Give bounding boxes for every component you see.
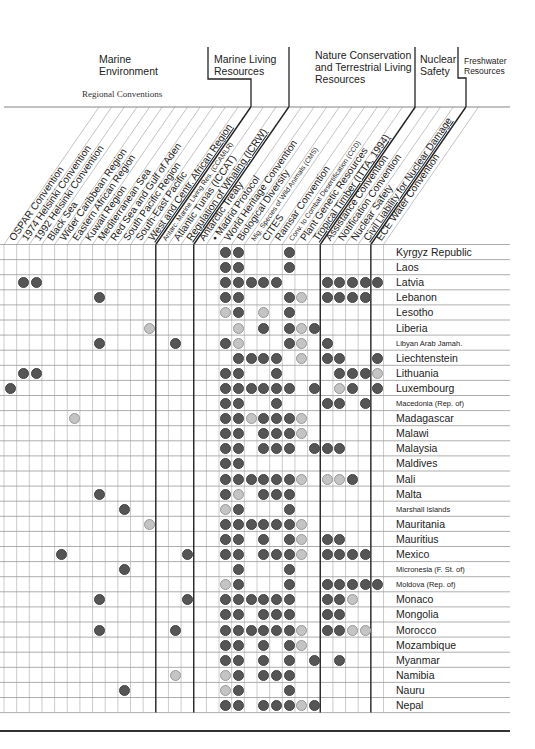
country-label: Mexico bbox=[396, 547, 429, 562]
member-dot bbox=[233, 549, 244, 560]
member-dot bbox=[360, 549, 371, 560]
member-dot bbox=[347, 549, 358, 560]
member-dot bbox=[258, 489, 269, 500]
country-label: Mauritania bbox=[396, 517, 445, 532]
country-label: Myanmar bbox=[396, 653, 440, 668]
country-label: Liberia bbox=[396, 321, 428, 336]
member-dot bbox=[233, 655, 244, 666]
member-dot bbox=[271, 474, 282, 485]
signatory-dot bbox=[347, 625, 358, 636]
member-dot bbox=[233, 353, 244, 364]
member-dot bbox=[284, 534, 295, 545]
member-dot bbox=[258, 323, 269, 334]
member-dot bbox=[246, 594, 257, 605]
member-dot bbox=[284, 579, 295, 590]
member-dot bbox=[284, 474, 295, 485]
member-dot bbox=[322, 277, 333, 288]
country-label: Kyrgyz Republic bbox=[396, 245, 472, 260]
member-dot bbox=[233, 247, 244, 258]
member-dot bbox=[334, 368, 345, 379]
member-dot bbox=[246, 353, 257, 364]
member-dot bbox=[284, 685, 295, 696]
member-dot bbox=[271, 353, 282, 364]
member-dot bbox=[233, 383, 244, 394]
signatory-dot bbox=[246, 413, 257, 424]
country-label: Marshall Islands bbox=[396, 502, 450, 517]
member-dot bbox=[119, 504, 130, 515]
member-dot bbox=[309, 700, 320, 711]
member-dot bbox=[271, 625, 282, 636]
signatory-dot bbox=[322, 474, 333, 485]
member-dot bbox=[170, 338, 181, 349]
member-dot bbox=[284, 428, 295, 439]
country-label: Macedonia (Rep. of) bbox=[396, 396, 464, 411]
member-dot bbox=[271, 670, 282, 681]
member-dot bbox=[246, 519, 257, 530]
member-dot bbox=[233, 368, 244, 379]
member-dot bbox=[322, 338, 333, 349]
member-dot bbox=[233, 640, 244, 651]
member-dot bbox=[284, 292, 295, 303]
member-dot bbox=[284, 625, 295, 636]
member-dot bbox=[360, 277, 371, 288]
member-dot bbox=[18, 368, 29, 379]
bottom-rule bbox=[0, 730, 510, 732]
member-dot bbox=[220, 338, 231, 349]
member-dot bbox=[271, 549, 282, 560]
member-dot bbox=[322, 609, 333, 620]
member-dot bbox=[322, 353, 333, 364]
signatory-dot bbox=[334, 474, 345, 485]
member-dot bbox=[233, 504, 244, 515]
member-dot bbox=[258, 625, 269, 636]
member-dot bbox=[322, 443, 333, 454]
member-dot bbox=[309, 383, 320, 394]
country-label: Lebanon bbox=[396, 290, 437, 305]
member-dot bbox=[170, 625, 181, 636]
country-label: Micronesia (F. St. of) bbox=[396, 562, 465, 577]
member-dot bbox=[233, 670, 244, 681]
member-dot bbox=[347, 474, 358, 485]
member-dot bbox=[258, 655, 269, 666]
member-dot bbox=[284, 670, 295, 681]
member-dot bbox=[233, 625, 244, 636]
signatory-dot bbox=[69, 413, 80, 424]
member-dot bbox=[271, 383, 282, 394]
country-label: Mauritius bbox=[396, 532, 439, 547]
member-dot bbox=[284, 262, 295, 273]
country-label: Lithuania bbox=[396, 366, 439, 381]
signatory-dot bbox=[144, 323, 155, 334]
member-dot bbox=[258, 640, 269, 651]
member-dot bbox=[334, 655, 345, 666]
member-dot bbox=[94, 338, 105, 349]
member-dot bbox=[258, 474, 269, 485]
member-dot bbox=[233, 398, 244, 409]
country-label: Mozambique bbox=[396, 638, 456, 653]
signatory-dot bbox=[233, 338, 244, 349]
country-label: Latvia bbox=[396, 275, 424, 290]
member-dot bbox=[322, 579, 333, 590]
member-dot bbox=[347, 383, 358, 394]
member-dot bbox=[271, 519, 282, 530]
member-dot bbox=[284, 504, 295, 515]
country-label: Moldova (Rep. of) bbox=[396, 577, 456, 592]
member-dot bbox=[284, 655, 295, 666]
member-dot bbox=[360, 579, 371, 590]
country-label: Malawi bbox=[396, 426, 429, 441]
member-dot bbox=[94, 625, 105, 636]
country-label: Nepal bbox=[396, 698, 423, 713]
member-dot bbox=[284, 594, 295, 605]
member-dot bbox=[233, 534, 244, 545]
member-dot bbox=[284, 247, 295, 258]
country-label: Libyan Arab Jamah. bbox=[396, 336, 462, 351]
country-label: Monaco bbox=[396, 592, 433, 607]
signatory-dot bbox=[296, 323, 307, 334]
signatory-dot bbox=[296, 474, 307, 485]
member-dot bbox=[284, 700, 295, 711]
member-dot bbox=[220, 640, 231, 651]
country-label: Namibia bbox=[396, 668, 435, 683]
country-label: Maldives bbox=[396, 456, 437, 471]
member-dot bbox=[334, 625, 345, 636]
member-dot bbox=[246, 474, 257, 485]
signatory-dot bbox=[296, 625, 307, 636]
signatory-dot bbox=[170, 670, 181, 681]
